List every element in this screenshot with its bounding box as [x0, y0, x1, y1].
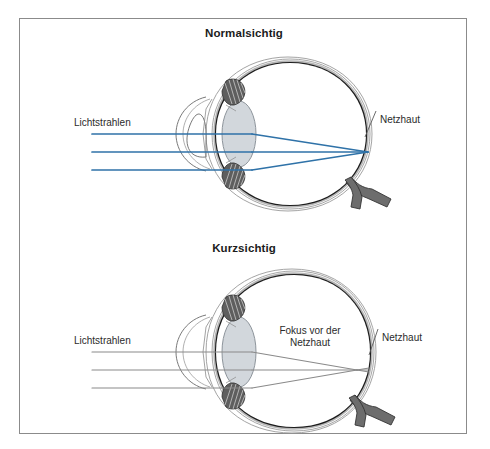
focus-note-line-1: Fokus vor der — [279, 325, 340, 336]
panel-nearsighted: Kurzsichtig — [20, 227, 468, 435]
focus-note-line-2: Netzhaut — [290, 337, 330, 348]
label-light-rays-normalsighted: Lichtstrahlen — [74, 117, 131, 129]
label-focus-note-nearsighted: Fokus vor der Netzhaut — [257, 325, 363, 349]
figure-canvas: Normalsichtig — [0, 0, 490, 449]
figure-frame: Normalsichtig — [19, 18, 467, 434]
label-retina-nearsighted: Netzhaut — [382, 332, 422, 344]
label-light-rays-nearsighted: Lichtstrahlen — [74, 335, 131, 347]
panel-normalsighted: Normalsichtig — [20, 19, 468, 227]
optic-nerve — [349, 395, 395, 427]
label-retina-normalsighted: Netzhaut — [380, 114, 420, 126]
eye-diagram-nearsighted — [20, 227, 468, 435]
optic-nerve — [345, 177, 391, 209]
